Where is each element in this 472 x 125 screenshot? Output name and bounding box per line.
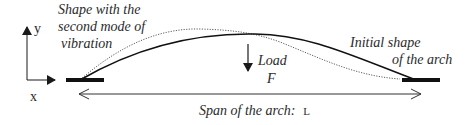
mode-shape-label-line1: Shape with the: [58, 2, 140, 18]
load-symbol: F: [267, 71, 276, 87]
mode-shape-label-line3: vibration: [61, 36, 112, 52]
y-axis-label: y: [34, 22, 41, 36]
span-label-group: Span of the arch:L: [199, 103, 310, 119]
axes-icon: [27, 27, 55, 80]
left-support: [66, 78, 104, 82]
mode-shape-label-line2: second mode of: [58, 19, 145, 35]
arch-diagram: y x Shape with the second mode of vibrat…: [0, 0, 472, 125]
span-label: Span of the arch:: [199, 103, 295, 118]
initial-shape-label-line2: of the arch: [392, 52, 452, 68]
right-support: [402, 78, 440, 82]
span-symbol: L: [303, 105, 310, 117]
load-label: Load: [258, 53, 287, 69]
initial-shape-label-line1: Initial shape: [350, 35, 420, 51]
x-axis-label: x: [30, 90, 37, 104]
